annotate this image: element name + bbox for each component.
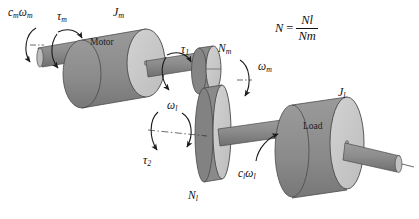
equation-numerator: Nl bbox=[299, 14, 315, 28]
load-damping-label: clωl bbox=[238, 168, 256, 181]
gear-load-label: Nl bbox=[188, 190, 198, 203]
motor-damping-label: cmωm bbox=[8, 7, 33, 20]
motor-body-label: Motor bbox=[90, 38, 114, 48]
load-speed-label: ωl bbox=[167, 100, 177, 113]
equation-equals: = bbox=[286, 22, 293, 35]
gear-torque-2-label: τ2 bbox=[143, 155, 151, 168]
equation-fraction: Nl Nm bbox=[296, 14, 317, 42]
motor-speed-label: ωm bbox=[258, 61, 272, 74]
figure-canvas: cmωm τm Jm Motor τ1 Nm ωm ωl τ2 Nl clωl … bbox=[0, 0, 419, 219]
gear-motor-label: Nm bbox=[218, 43, 231, 56]
motor-torque-label: τm bbox=[57, 11, 67, 24]
motor-speed-arrow bbox=[237, 60, 252, 96]
load-speed-arrow bbox=[182, 113, 191, 147]
load-body-label: Load bbox=[303, 122, 323, 132]
gear-torque-1-label: τ1 bbox=[181, 44, 189, 57]
motor-inertia-label: Jm bbox=[113, 6, 124, 20]
gear-ratio-equation: N = Nl Nm bbox=[275, 14, 318, 42]
drivetrain-illustration bbox=[0, 0, 419, 219]
load-inertia-label: Jl bbox=[338, 86, 346, 100]
equation-lhs: N bbox=[275, 22, 283, 35]
equation-denominator: Nm bbox=[296, 28, 317, 43]
